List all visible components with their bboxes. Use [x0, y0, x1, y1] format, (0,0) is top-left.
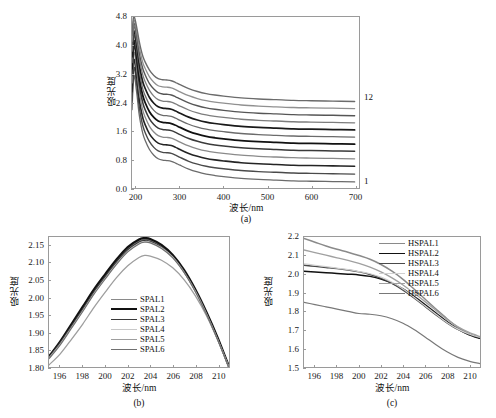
legend-item[interactable]: HSPAL4 — [379, 268, 439, 278]
legend-line-swatch — [111, 349, 137, 350]
x-tick-mark — [425, 365, 426, 368]
legend-item[interactable]: HSPAL1 — [379, 238, 439, 248]
x-tick-mark — [314, 365, 315, 368]
y-tick-mark — [131, 160, 134, 161]
y-tick-label: 1.85 — [16, 346, 44, 355]
y-tick-label: 1.5 — [271, 364, 299, 373]
legend-item[interactable]: HSPAL6 — [379, 288, 439, 298]
x-tick-label: 210 — [212, 372, 226, 381]
legend-label: SPAL2 — [140, 304, 165, 314]
y-tick-label: 2.2 — [271, 232, 299, 241]
x-tick-label: 200 — [129, 193, 143, 202]
y-tick-mark — [131, 131, 134, 132]
curve-11 — [132, 20, 355, 109]
panel-c-x-axis-title: 波长/nm — [332, 380, 452, 394]
y-tick-label: 0.0 — [99, 185, 127, 194]
curve-12 — [132, 17, 355, 101]
panel-a-y-axis-title: 吸光度 — [105, 76, 119, 106]
x-tick-mark — [196, 365, 197, 368]
x-tick-mark — [135, 186, 136, 189]
y-tick-mark — [48, 262, 51, 263]
y-tick-mark — [131, 16, 134, 17]
y-tick-label: 2.15 — [16, 240, 44, 249]
x-tick-mark — [312, 186, 313, 189]
panel-b-caption: (b) — [79, 398, 199, 408]
y-tick-label: 1.8 — [271, 307, 299, 316]
panel-a-x-axis-title: 波长/nm — [186, 200, 306, 214]
y-tick-label: 1.7 — [271, 326, 299, 335]
legend-item[interactable]: HSPAL3 — [379, 258, 439, 268]
legend-item[interactable]: SPAL1 — [111, 294, 165, 304]
y-tick-label: 4.0 — [99, 40, 127, 49]
legend-line-swatch — [379, 263, 405, 264]
x-tick-label: 700 — [349, 193, 363, 202]
legend-line-swatch — [379, 283, 405, 284]
panel-b: 1.801.851.901.952.002.052.102.1519619820… — [0, 228, 248, 418]
panel-c: 1.51.61.71.81.92.02.12.21961982002022042… — [248, 228, 496, 418]
x-tick-mark — [336, 365, 337, 368]
legend-line-swatch — [111, 339, 137, 340]
legend-item[interactable]: SPAL3 — [111, 314, 165, 324]
legend-line-swatch — [379, 273, 405, 274]
y-tick-mark — [48, 350, 51, 351]
y-tick-label: 1.6 — [271, 345, 299, 354]
x-tick-mark — [356, 186, 357, 189]
legend-label: HSPAL3 — [408, 258, 439, 268]
y-tick-mark — [303, 368, 306, 369]
legend-line-swatch — [379, 253, 405, 254]
panel-a-bottom-series-label: 1 — [364, 176, 369, 186]
y-tick-label: 2.10 — [16, 258, 44, 267]
y-tick-mark — [303, 236, 306, 237]
y-tick-mark — [303, 274, 306, 275]
y-tick-label: 0.8 — [99, 156, 127, 165]
y-tick-mark — [303, 311, 306, 312]
x-tick-mark — [268, 186, 269, 189]
y-tick-mark — [303, 255, 306, 256]
panel-a-plot-area — [131, 16, 360, 189]
legend-line-swatch — [379, 293, 405, 294]
legend-item[interactable]: HSPAL5 — [379, 278, 439, 288]
x-tick-mark — [359, 365, 360, 368]
x-tick-mark — [223, 186, 224, 189]
x-tick-mark — [381, 365, 382, 368]
x-tick-label: 210 — [463, 372, 477, 381]
panel-c-legend: HSPAL1HSPAL2HSPAL3HSPAL4HSPAL5HSPAL6 — [379, 238, 439, 298]
curve-HSPAL6 — [304, 302, 480, 363]
legend-label: HSPAL6 — [408, 288, 439, 298]
x-tick-mark — [105, 365, 106, 368]
x-tick-mark — [173, 365, 174, 368]
legend-line-swatch — [111, 319, 137, 320]
legend-label: SPAL6 — [140, 344, 165, 354]
legend-label: SPAL5 — [140, 334, 165, 344]
x-tick-mark — [150, 365, 151, 368]
x-tick-label: 196 — [307, 372, 321, 381]
legend-item[interactable]: SPAL4 — [111, 324, 165, 334]
y-tick-label: 2.1 — [271, 250, 299, 259]
legend-item[interactable]: SPAL6 — [111, 344, 165, 354]
panel-c-caption: (c) — [332, 398, 452, 408]
x-tick-mark — [82, 365, 83, 368]
panel-b-legend: SPAL1SPAL2SPAL3SPAL4SPAL5SPAL6 — [111, 294, 165, 354]
y-tick-label: 4.8 — [99, 12, 127, 21]
x-tick-mark — [179, 186, 180, 189]
legend-item[interactable]: SPAL5 — [111, 334, 165, 344]
legend-item[interactable]: HSPAL2 — [379, 248, 439, 258]
panel-a-caption: (a) — [186, 214, 306, 224]
legend-item[interactable]: SPAL2 — [111, 304, 165, 314]
y-tick-label: 1.90 — [16, 328, 44, 337]
y-tick-label: 1.6 — [99, 127, 127, 136]
panel-b-x-axis-title: 波长/nm — [79, 380, 199, 394]
legend-label: SPAL3 — [140, 314, 165, 324]
y-tick-mark — [131, 189, 134, 190]
panel-a-curves — [132, 17, 359, 188]
y-tick-mark — [131, 74, 134, 75]
legend-label: HSPAL2 — [408, 248, 439, 258]
y-tick-mark — [48, 315, 51, 316]
legend-label: HSPAL1 — [408, 238, 439, 248]
legend-line-swatch — [111, 329, 137, 330]
legend-line-swatch — [111, 308, 137, 310]
x-tick-label: 196 — [53, 372, 67, 381]
legend-label: HSPAL4 — [408, 268, 439, 278]
y-tick-label: 1.80 — [16, 364, 44, 373]
x-tick-label: 600 — [305, 193, 319, 202]
